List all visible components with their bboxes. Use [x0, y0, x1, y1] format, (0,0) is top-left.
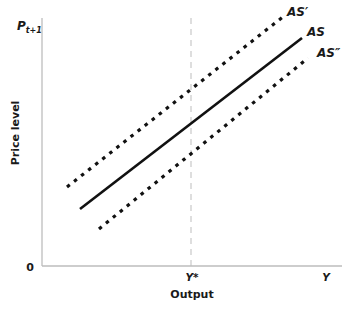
x-axis-end-label: Y [322, 271, 331, 283]
as-diagram: AS′ AS AS″ Pt+1 Price level 0 Y* Y Outpu… [0, 0, 349, 312]
label-as-double-prime: AS″ [316, 46, 341, 60]
curve-as-double-prime [99, 58, 308, 229]
origin-label: 0 [26, 261, 34, 274]
curve-as-prime [67, 16, 284, 187]
label-as-prime: AS′ [286, 5, 309, 19]
y-axis-title: Price level [9, 101, 22, 166]
x-tick-potential-output: Y* [185, 271, 199, 283]
x-axis-title: Output [170, 288, 213, 301]
y-axis-top-label: Pt+1 [17, 19, 42, 35]
label-as: AS [306, 25, 325, 39]
